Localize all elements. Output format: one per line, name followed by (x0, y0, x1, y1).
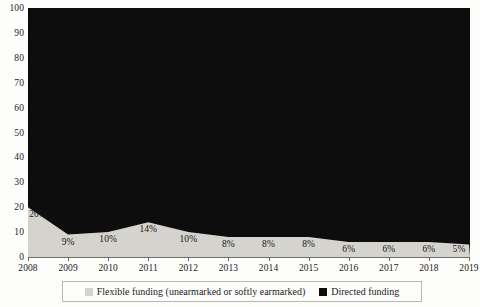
x-tick-mark (309, 257, 310, 261)
x-tick-label: 2019 (447, 262, 480, 274)
x-tick-label: 2011 (126, 262, 170, 274)
x-tick-label: 2010 (86, 262, 130, 274)
y-tick-label: 90 (0, 28, 24, 38)
y-tick-label: 40 (0, 152, 24, 162)
y-tick-label: 10 (0, 227, 24, 237)
area-series-group (28, 8, 470, 257)
legend-label-flexible-funding: Flexible funding (unearmarked or softly … (97, 286, 306, 298)
x-tick-label: 2017 (367, 262, 411, 274)
y-tick-label: 0 (0, 252, 24, 262)
legend-swatch-directed-funding (319, 288, 327, 296)
y-tick-label: 50 (0, 128, 24, 138)
x-tick-mark (108, 257, 109, 261)
x-tick-mark (68, 257, 69, 261)
x-tick-label: 2018 (407, 262, 451, 274)
y-tick-label: 30 (0, 177, 24, 187)
y-tick-label: 100 (0, 3, 24, 13)
x-tick-mark (269, 257, 270, 261)
x-tick-mark (148, 257, 149, 261)
plot-area (28, 8, 470, 257)
x-tick-mark (228, 257, 229, 261)
y-axis: 0102030405060708090100 (0, 8, 24, 257)
x-tick-label: 2016 (327, 262, 371, 274)
stacked-area-chart: 0102030405060708090100 20082009201020112… (0, 0, 480, 307)
x-tick-mark (389, 257, 390, 261)
x-tick-label: 2012 (166, 262, 210, 274)
y-tick-label: 80 (0, 53, 24, 63)
area-series-directed-funding (28, 8, 470, 257)
legend-item-directed-funding[interactable]: Directed funding (319, 286, 399, 298)
x-axis-ticks (28, 257, 470, 261)
x-tick-label: 2009 (46, 262, 90, 274)
x-tick-mark (469, 257, 470, 261)
legend-swatch-flexible-funding (85, 288, 93, 296)
x-tick-label: 2008 (6, 262, 50, 274)
x-tick-mark (429, 257, 430, 261)
y-tick-label: 20 (0, 202, 24, 212)
x-tick-mark (349, 257, 350, 261)
legend-item-flexible-funding[interactable]: Flexible funding (unearmarked or softly … (85, 286, 306, 298)
y-tick-label: 60 (0, 103, 24, 113)
x-axis-labels: 2008200920102011201220132014201520162017… (0, 262, 480, 276)
x-tick-label: 2013 (206, 262, 250, 274)
x-tick-mark (28, 257, 29, 261)
x-tick-label: 2015 (287, 262, 331, 274)
legend-label-directed-funding: Directed funding (331, 286, 399, 298)
x-tick-label: 2014 (247, 262, 291, 274)
x-tick-mark (188, 257, 189, 261)
chart-legend: Flexible funding (unearmarked or softly … (62, 281, 422, 302)
y-tick-label: 70 (0, 78, 24, 88)
